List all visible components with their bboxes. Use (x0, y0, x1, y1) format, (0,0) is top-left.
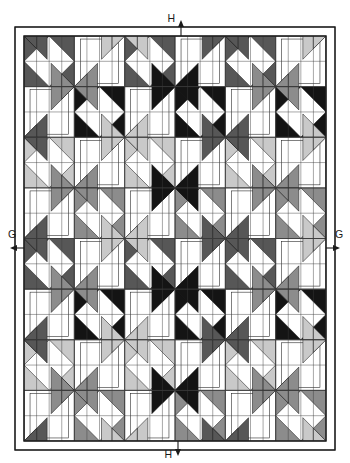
marker-right-label: G (335, 228, 343, 240)
marker-bottom-label: H (164, 448, 172, 460)
marker-left-label: G (8, 228, 16, 240)
diagram-page: strips. H H G (0, 0, 350, 463)
marker-top-label: H (167, 12, 175, 24)
quilt-assembly-diagram: H H G G (0, 0, 350, 463)
